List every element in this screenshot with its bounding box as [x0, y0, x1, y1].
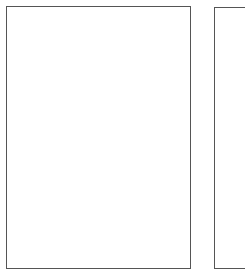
page-thumbnail[interactable] [214, 7, 245, 269]
page-thumbnail[interactable] [6, 6, 191, 269]
